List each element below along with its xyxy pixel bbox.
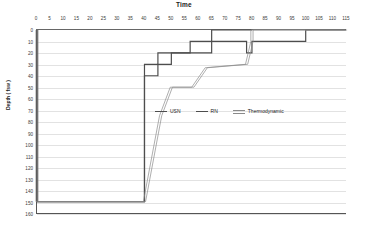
x-tick-label: 25 [101,16,106,21]
y-tick-label: 40 [28,74,33,79]
x-tick-label: 35 [128,16,133,21]
x-tick-label: 110 [329,16,336,21]
x-tick-label: 60 [195,16,200,21]
x-tick-label: 65 [209,16,214,21]
x-tick-label: 95 [290,16,295,21]
x-tick-label: 115 [342,16,349,21]
y-tick-label: 140 [25,189,33,194]
y-tick-label: 20 [28,51,33,56]
plot-area [36,30,346,214]
y-tick-label: 150 [25,200,33,205]
grid-line [37,214,346,215]
x-tick-label: 100 [302,16,310,21]
y-tick-label: 130 [25,177,33,182]
y-tick-label: 90 [28,131,33,136]
x-tick-label: 70 [222,16,227,21]
series-line-thermodynamic [36,30,345,202]
chart-title: Time [0,1,368,8]
x-tick-label: 30 [114,16,119,21]
x-tick-label: 75 [236,16,241,21]
y-tick-label: 10 [28,39,33,44]
y-tick-label: 70 [28,108,33,113]
x-tick-label: 85 [263,16,268,21]
y-tick-label: 0 [30,28,33,33]
legend-swatch-rn [196,111,208,112]
x-tick-label: 50 [168,16,173,21]
x-tick-label: 0 [35,16,38,21]
x-tick-label: 45 [155,16,160,21]
legend-label-thermodynamic: Thermodynamic [248,108,284,114]
x-tick-label: 5 [48,16,51,21]
x-tick-label: 10 [60,16,65,21]
x-tick-label: 55 [182,16,187,21]
y-tick-label: 80 [28,120,33,125]
x-tick-label: 90 [276,16,281,21]
chart-legend: USN RN Thermodynamic [155,108,284,114]
series-line-rn [37,30,346,202]
x-tick-label: 40 [141,16,146,21]
x-tick-label: 105 [315,16,323,21]
data-series [37,30,346,213]
y-tick-label: 30 [28,62,33,67]
y-tick-label: 160 [25,212,33,217]
legend-label-usn: USN [170,108,181,114]
x-tick-label: 15 [74,16,79,21]
legend-label-rn: RN [211,108,218,114]
y-tick-label: 110 [26,154,33,159]
y-tick-label: 120 [25,166,33,171]
legend-swatch-thermodynamic [233,110,245,113]
x-tick-label: 80 [249,16,254,21]
legend-item-usn[interactable]: USN [155,108,181,114]
y-axis-title: Depth ( fsw ) [5,65,11,125]
x-tick-label: 20 [87,16,92,21]
legend-swatch-usn [155,111,167,112]
legend-item-rn[interactable]: RN [196,108,218,114]
series-line-thermodynamic [38,30,347,202]
y-tick-label: 50 [28,85,33,90]
legend-item-thermodynamic[interactable]: Thermodynamic [233,108,284,114]
y-tick-label: 100 [25,143,33,148]
y-tick-label: 60 [28,97,33,102]
depth-time-chart: Time 05101520253035404550556065707580859… [0,0,368,235]
